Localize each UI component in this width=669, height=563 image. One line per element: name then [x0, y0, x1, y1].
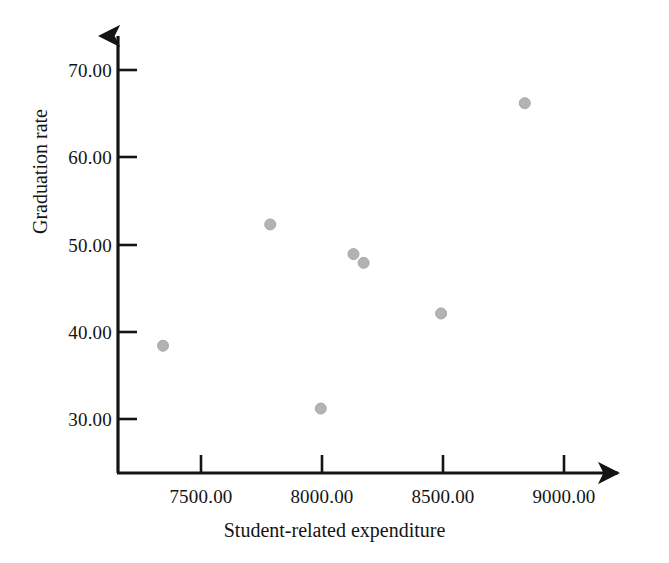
data-point	[348, 249, 359, 260]
data-point	[158, 340, 169, 351]
x-axis-ticks	[201, 455, 564, 473]
data-point	[265, 219, 276, 230]
x-axis-title: Student-related expenditure	[0, 519, 669, 542]
y-axis-ticks	[118, 70, 137, 419]
data-point	[315, 403, 326, 414]
scatter-plot-figure: 70.00 60.00 50.00 40.00 30.00 7500.00 80…	[0, 0, 669, 563]
y-tick-label-30: 30.00	[20, 410, 112, 429]
x-tick-label-9000: 9000.00	[532, 487, 595, 506]
data-points	[158, 98, 531, 414]
plot-canvas	[0, 0, 669, 563]
y-tick-label-40: 40.00	[20, 323, 112, 342]
data-point	[436, 308, 447, 319]
y-axis-title: Graduation rate	[29, 72, 52, 272]
axes	[117, 36, 618, 473]
data-point	[519, 98, 530, 109]
x-tick-label-8500: 8500.00	[411, 487, 474, 506]
x-tick-label-8000: 8000.00	[290, 487, 353, 506]
x-tick-label-7500: 7500.00	[169, 487, 232, 506]
data-point	[358, 257, 369, 268]
